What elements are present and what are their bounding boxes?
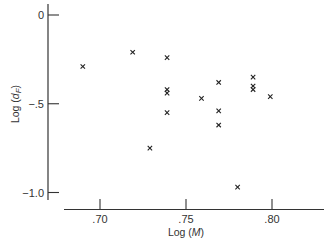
x-tick-label: .75 xyxy=(178,213,193,225)
data-point-x-marker xyxy=(216,80,220,84)
data-point-x-marker xyxy=(268,94,272,98)
y-tick-label: −1.0 xyxy=(22,187,44,199)
y-tick-label: 0 xyxy=(38,9,44,21)
data-point-x-marker xyxy=(165,110,169,114)
data-point-x-marker xyxy=(148,146,152,150)
data-point-x-marker xyxy=(165,55,169,59)
x-axis-label: Log (M) xyxy=(168,226,204,238)
data-point-x-marker xyxy=(199,96,203,100)
scatter-plot: 0−.5−1.0 .70.75.80 Log (M) Log (dF) xyxy=(0,0,329,244)
y-ticks: 0−.5−1.0 xyxy=(22,9,59,199)
data-point-x-marker xyxy=(216,123,220,127)
y-axis-label: Log (dF) xyxy=(9,85,23,123)
data-point-x-marker xyxy=(216,109,220,113)
data-point-x-marker xyxy=(130,50,134,54)
axes xyxy=(48,4,324,210)
data-point-x-marker xyxy=(81,64,85,68)
data-point-x-marker xyxy=(251,75,255,79)
data-point-x-marker xyxy=(251,87,255,91)
x-tick-label: .70 xyxy=(92,213,107,225)
x-tick-label: .80 xyxy=(264,213,279,225)
data-points xyxy=(81,50,273,189)
data-point-x-marker xyxy=(165,91,169,95)
y-tick-label: −.5 xyxy=(28,98,44,110)
data-point-x-marker xyxy=(235,185,239,189)
x-ticks: .70.75.80 xyxy=(92,199,279,225)
